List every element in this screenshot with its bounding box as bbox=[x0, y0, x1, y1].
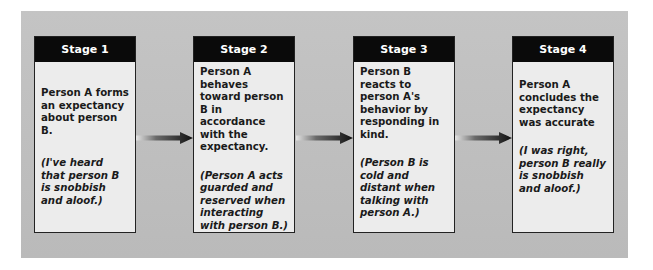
stage-3-title: Stage 3 bbox=[354, 37, 454, 62]
stage-2-example: (Person A acts guarded and reserved when… bbox=[200, 170, 288, 233]
stage-2-body: Person A behaves toward person B in acco… bbox=[194, 66, 294, 232]
gradient-right-arrow-icon bbox=[455, 132, 512, 144]
gradient-right-arrow-icon bbox=[296, 132, 353, 144]
stage-4-box: Stage 4 Person A concludes the expectanc… bbox=[512, 36, 614, 233]
stage-1-title: Stage 1 bbox=[35, 37, 135, 62]
stage-2-statement: Person A behaves toward person B in acco… bbox=[200, 66, 288, 154]
stage-1-statement: Person A forms an expectancy about perso… bbox=[41, 87, 129, 137]
stage-3-example: (Person B is cold and distant when talki… bbox=[360, 157, 448, 220]
stage-2-box: Stage 2 Person A behaves toward person B… bbox=[193, 36, 295, 233]
stage-1-example: (I've heard that person B is snobbish an… bbox=[41, 157, 129, 207]
stage-3-statement: Person B reacts to person A's behavior b… bbox=[360, 66, 448, 141]
stage-1-box: Stage 1 Person A forms an expectancy abo… bbox=[34, 36, 136, 233]
stage-3-box: Stage 3 Person B reacts to person A's be… bbox=[353, 36, 455, 233]
stage-4-statement: Person A concludes the expectancy was ac… bbox=[519, 79, 607, 129]
stage-3-body: Person B reacts to person A's behavior b… bbox=[354, 66, 454, 220]
stage-4-title: Stage 4 bbox=[513, 37, 613, 62]
stage-1-body: Person A forms an expectancy about perso… bbox=[35, 87, 135, 207]
stage-2-title: Stage 2 bbox=[194, 37, 294, 62]
gradient-right-arrow-icon bbox=[136, 132, 193, 144]
stage-4-body: Person A concludes the expectancy was ac… bbox=[513, 79, 613, 195]
stage-4-example: (I was right, person B really is snobbis… bbox=[519, 145, 607, 195]
